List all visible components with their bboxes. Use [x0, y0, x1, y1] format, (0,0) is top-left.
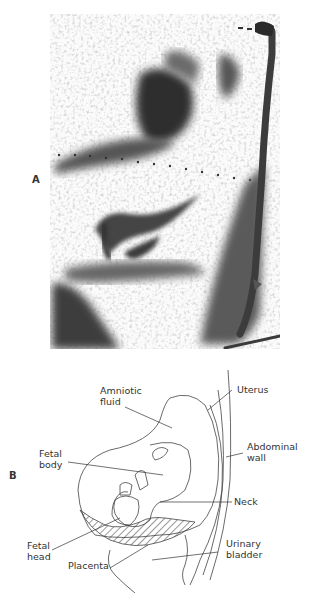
- label-amniotic-fluid-line1: Amniotic: [100, 385, 142, 396]
- label-urinary-bladder-line1: Urinary: [226, 538, 261, 549]
- label-amniotic-fluid: Amnioticfluid: [100, 385, 142, 407]
- label-fetal-body-line2: body: [39, 459, 63, 470]
- label-fetal-head-line2: head: [27, 551, 51, 562]
- label-fetal-body-line1: Fetal: [39, 448, 62, 459]
- label-neck: Neck: [234, 496, 258, 507]
- label-abdominal-wall-line1: Abdominal: [247, 441, 298, 452]
- ultrasound-scan-graphic: [50, 14, 280, 349]
- label-uterus: Uterus: [237, 384, 268, 395]
- label-amniotic-fluid-line2: fluid: [100, 396, 121, 407]
- panel-b-letter: B: [9, 470, 17, 481]
- label-fetal-body: Fetalbody: [39, 448, 63, 470]
- label-urinary-bladder-line2: bladder: [226, 549, 262, 560]
- panel-a-letter: A: [32, 174, 40, 185]
- ultrasound-image: [50, 14, 280, 349]
- label-abdominal-wall: Abdominalwall: [247, 441, 298, 463]
- label-fetal-head-line1: Fetal: [27, 540, 50, 551]
- label-placenta: Placenta: [68, 560, 109, 571]
- label-abdominal-wall-line2: wall: [247, 452, 266, 463]
- labeled-diagram: B Amnioticfluid Uterus Abdominalwall Fet…: [0, 350, 318, 593]
- label-urinary-bladder: Urinarybladder: [226, 538, 262, 560]
- label-fetal-head: Fetalhead: [27, 540, 51, 562]
